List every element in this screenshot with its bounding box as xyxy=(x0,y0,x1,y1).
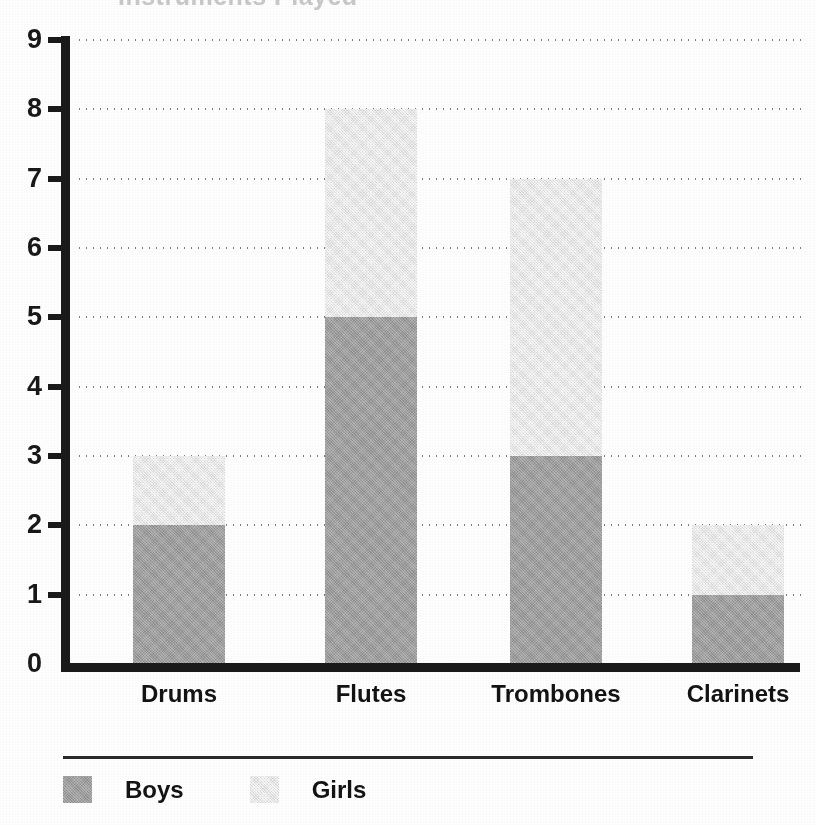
gridline xyxy=(76,316,802,318)
y-axis-tick-label: 9 xyxy=(0,26,42,53)
y-axis-tick xyxy=(48,106,62,112)
clipped-title-text: Instruments Played xyxy=(118,0,358,11)
y-axis-tick xyxy=(48,522,62,528)
stacked-bar-chart: 0123456789 DrumsFlutesTrombonesClarinets xyxy=(0,0,816,825)
legend-swatch-boys xyxy=(63,776,92,803)
bar-segment-girls[interactable] xyxy=(510,179,602,456)
x-axis-line xyxy=(61,663,800,672)
legend-label: Boys xyxy=(125,778,184,802)
bar-group[interactable] xyxy=(325,109,417,664)
legend-swatch-girls xyxy=(250,776,279,803)
y-axis-tick xyxy=(48,453,62,459)
bar-segment-boys[interactable] xyxy=(692,595,784,664)
y-axis-line xyxy=(61,36,70,672)
y-axis-tick-label: 7 xyxy=(0,165,42,192)
legend-item-boys[interactable]: Boys xyxy=(63,776,184,803)
y-axis-tick-label: 4 xyxy=(0,373,42,400)
gridline xyxy=(76,178,802,180)
y-axis-tick-label: 8 xyxy=(0,95,42,122)
x-axis-label-drums: Drums xyxy=(93,682,265,706)
x-axis-label-trombones: Trombones xyxy=(470,682,642,706)
bar-segment-girls[interactable] xyxy=(692,525,784,594)
gridline xyxy=(76,39,802,41)
y-axis-tick-label: 6 xyxy=(0,234,42,261)
y-axis-tick xyxy=(48,384,62,390)
y-axis-tick xyxy=(48,592,62,598)
y-axis-tick-label: 2 xyxy=(0,511,42,538)
gridline xyxy=(76,247,802,249)
chart-legend: BoysGirls xyxy=(63,776,366,803)
y-axis-tick-label: 0 xyxy=(0,650,42,677)
y-axis-tick-label: 5 xyxy=(0,303,42,330)
y-axis-tick xyxy=(48,176,62,182)
bar-segment-boys[interactable] xyxy=(325,317,417,664)
bar-segment-boys[interactable] xyxy=(133,525,225,664)
y-axis-tick xyxy=(48,37,62,43)
bar-segment-girls[interactable] xyxy=(325,109,417,317)
bar-segment-boys[interactable] xyxy=(510,456,602,664)
gridline xyxy=(76,108,802,110)
clipped-title: Instruments Played xyxy=(0,0,816,14)
y-axis-tick xyxy=(48,245,62,251)
x-axis-label-clarinets: Clarinets xyxy=(652,682,816,706)
bar-group[interactable] xyxy=(133,456,225,664)
bar-group[interactable] xyxy=(510,179,602,664)
gridline xyxy=(76,386,802,388)
y-axis-tick xyxy=(48,314,62,320)
legend-label: Girls xyxy=(312,778,367,802)
bar-segment-girls[interactable] xyxy=(133,456,225,525)
legend-item-girls[interactable]: Girls xyxy=(250,776,367,803)
x-axis-label-flutes: Flutes xyxy=(285,682,457,706)
legend-divider xyxy=(63,756,753,759)
bar-group[interactable] xyxy=(692,525,784,664)
y-axis-tick-label: 3 xyxy=(0,442,42,469)
y-axis-tick-label: 1 xyxy=(0,581,42,608)
